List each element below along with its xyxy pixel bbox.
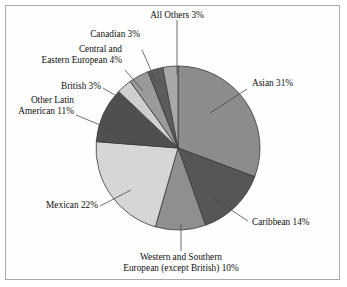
label-central-eastern-european: Central and Eastern European 4% xyxy=(10,44,122,66)
label-western-southern-european-line1: Western and Southern xyxy=(101,252,261,263)
label-other-latin-american: Other Latin American 11% xyxy=(6,95,74,117)
label-mexican: Mexican 22% xyxy=(18,200,98,211)
pie-chart: Asian 31% Caribbean 14% Western and Sout… xyxy=(0,0,347,287)
label-western-southern-european: Western and Southern European (except Br… xyxy=(101,252,261,274)
label-canadian: Canadian 3% xyxy=(58,29,140,40)
label-all-others: All Others 3% xyxy=(127,10,227,21)
label-central-eastern-european-line1: Central and xyxy=(10,44,122,55)
label-caribbean: Caribbean 14% xyxy=(252,217,310,228)
label-british: British 3% xyxy=(32,81,101,92)
label-other-latin-american-line1: Other Latin xyxy=(6,95,74,106)
label-asian: Asian 31% xyxy=(252,78,293,89)
pie-slices xyxy=(96,66,260,230)
label-central-eastern-european-line2: Eastern European 4% xyxy=(10,55,122,66)
label-other-latin-american-line2: American 11% xyxy=(6,106,74,117)
label-western-southern-european-line2: European (except British) 10% xyxy=(101,263,261,274)
